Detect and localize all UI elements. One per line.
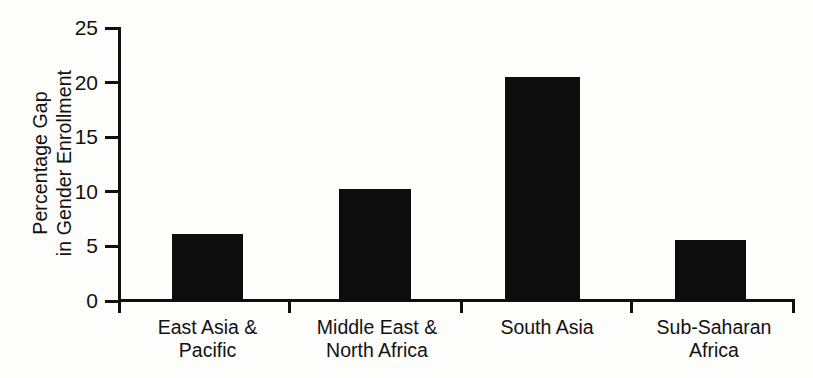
x-label-middle-east-north-africa: Middle East & North Africa [292, 316, 462, 363]
x-label-line-1: Middle East & [292, 316, 462, 339]
x-label-line-1: East Asia & [126, 316, 289, 339]
y-tick-mark-0 [105, 300, 119, 303]
bar-middle-east-north-africa [339, 189, 411, 302]
y-tick-mark-5 [105, 245, 119, 248]
x-axis-end-tick [792, 301, 795, 313]
bar-east-asia-pacific [172, 234, 243, 301]
x-tick-mark-1 [288, 301, 291, 313]
x-label-line-1: Sub-Saharan [634, 316, 794, 339]
x-label-line-2: Pacific [126, 339, 289, 362]
y-axis-tick-labels: 25 20 15 10 5 0 [52, 0, 98, 378]
y-axis-line [118, 27, 121, 304]
x-tick-mark-0 [118, 301, 121, 313]
y-tick-label-15: 15 [52, 126, 98, 147]
plot-area [118, 28, 795, 302]
y-tick-mark-20 [105, 81, 119, 84]
y-tick-label-20: 20 [52, 72, 98, 93]
y-tick-mark-15 [105, 136, 119, 139]
y-tick-label-5: 5 [52, 235, 98, 256]
y-tick-mark-10 [105, 190, 119, 193]
y-tick-label-0: 0 [52, 290, 98, 311]
y-axis-top-tick [105, 27, 119, 30]
x-tick-mark-3 [630, 301, 633, 313]
x-label-line-2: North Africa [292, 339, 462, 362]
bar-sub-saharan-africa [675, 240, 746, 301]
y-tick-label-10: 10 [52, 181, 98, 202]
x-tick-mark-2 [460, 301, 463, 313]
x-label-line-2: Africa [634, 339, 794, 362]
x-axis-category-labels: East Asia & Pacific Middle East & North … [118, 316, 795, 378]
x-label-south-asia: South Asia [466, 316, 628, 339]
bar-chart-figure: Percentage Gap in Gender Enrollment 25 2… [0, 0, 813, 378]
y-tick-label-25: 25 [52, 17, 98, 38]
x-label-east-asia-pacific: East Asia & Pacific [126, 316, 289, 363]
y-axis-title-line-1: Percentage Gap [29, 91, 53, 234]
x-label-sub-saharan-africa: Sub-Saharan Africa [634, 316, 794, 363]
bar-south-asia [505, 77, 580, 301]
x-label-line-1: South Asia [466, 316, 628, 339]
